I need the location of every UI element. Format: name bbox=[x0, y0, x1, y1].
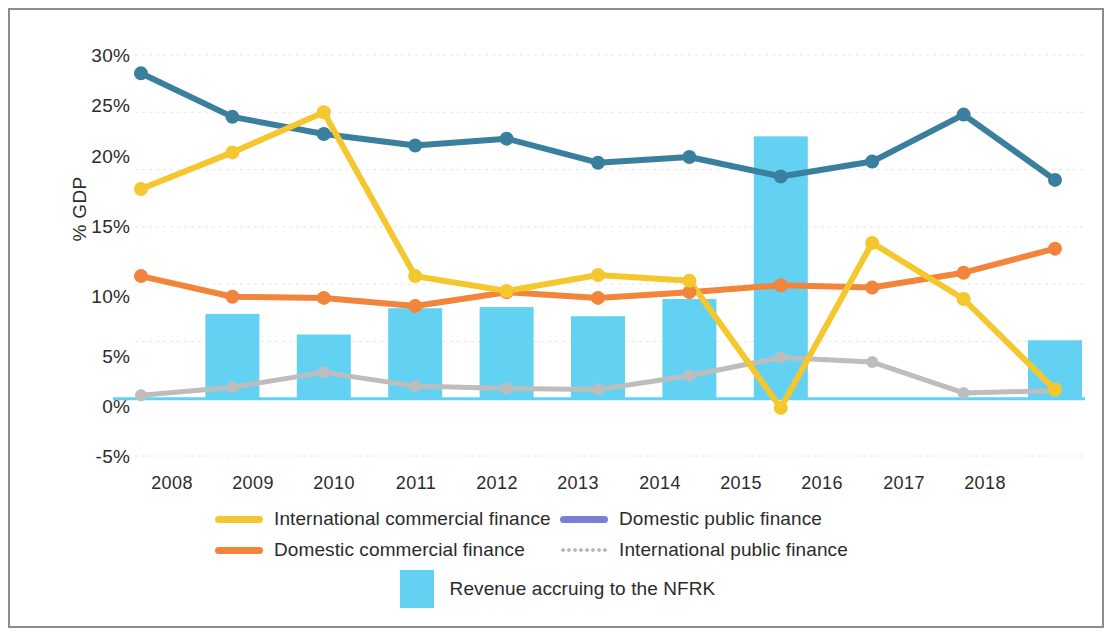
data-point bbox=[408, 299, 422, 313]
legend-label: International commercial finance bbox=[274, 508, 551, 530]
data-point bbox=[225, 290, 239, 304]
data-point bbox=[775, 351, 787, 363]
data-point bbox=[958, 387, 970, 399]
legend-label: Domestic commercial finance bbox=[274, 539, 525, 561]
data-point bbox=[592, 384, 604, 396]
data-point bbox=[134, 182, 148, 196]
data-point bbox=[774, 401, 788, 415]
chart-legend: International commercial finance Domesti… bbox=[0, 508, 1115, 617]
legend-label: Domestic public finance bbox=[619, 508, 822, 530]
bar-series-nfrk bbox=[205, 136, 1082, 398]
legend-row-1: International commercial finance Domesti… bbox=[0, 508, 1115, 530]
data-point bbox=[865, 281, 879, 295]
legend-item-international-commercial-finance[interactable]: International commercial finance bbox=[215, 508, 560, 530]
data-point bbox=[134, 269, 148, 283]
data-point bbox=[500, 132, 514, 146]
data-point bbox=[591, 291, 605, 305]
data-point bbox=[408, 269, 422, 283]
bar bbox=[662, 299, 716, 399]
data-point bbox=[774, 169, 788, 183]
legend-item-revenue-accruing-to-nfrk[interactable]: Revenue accruing to the NFRK bbox=[400, 570, 716, 608]
data-point bbox=[683, 370, 695, 382]
legend-label: International public finance bbox=[619, 539, 848, 561]
data-point bbox=[957, 266, 971, 280]
data-point bbox=[865, 236, 879, 250]
chart-figure: % GDP 30% 25% 20% 15% 10% 5% 0% -5% 2008… bbox=[0, 0, 1115, 638]
data-point bbox=[591, 268, 605, 282]
data-point bbox=[135, 389, 147, 401]
legend-line-icon-yellow bbox=[215, 516, 263, 523]
data-point bbox=[866, 356, 878, 368]
legend-row-2: Domestic commercial finance Internationa… bbox=[0, 539, 1115, 561]
data-point bbox=[225, 110, 239, 124]
data-point bbox=[317, 127, 331, 141]
data-point bbox=[957, 108, 971, 122]
legend-item-domestic-commercial-finance[interactable]: Domestic commercial finance bbox=[215, 539, 560, 561]
data-point bbox=[317, 105, 331, 119]
data-point bbox=[774, 278, 788, 292]
data-point bbox=[1048, 383, 1062, 397]
data-point bbox=[500, 284, 514, 298]
data-point bbox=[318, 366, 330, 378]
legend-dotted-line-icon-gray bbox=[560, 547, 608, 553]
data-point bbox=[408, 139, 422, 153]
data-point bbox=[409, 380, 421, 392]
data-point bbox=[134, 66, 148, 80]
legend-line-icon-periwinkle bbox=[560, 516, 608, 523]
data-point bbox=[682, 150, 696, 164]
data-point bbox=[317, 291, 331, 305]
data-point bbox=[865, 155, 879, 169]
data-point bbox=[591, 156, 605, 170]
data-point bbox=[225, 145, 239, 159]
legend-bar-icon-cyan bbox=[400, 570, 434, 608]
legend-line-icon-orange bbox=[215, 547, 263, 554]
data-point bbox=[226, 381, 238, 393]
legend-row-3: Revenue accruing to the NFRK bbox=[0, 570, 1115, 608]
data-point bbox=[1048, 173, 1062, 187]
data-point bbox=[957, 292, 971, 306]
data-point bbox=[682, 274, 696, 288]
legend-item-domestic-public-finance[interactable]: Domestic public finance bbox=[560, 508, 900, 530]
data-point bbox=[501, 382, 513, 394]
legend-label: Revenue accruing to the NFRK bbox=[450, 578, 716, 600]
legend-item-international-public-finance[interactable]: International public finance bbox=[560, 539, 900, 561]
data-point bbox=[1048, 242, 1062, 256]
